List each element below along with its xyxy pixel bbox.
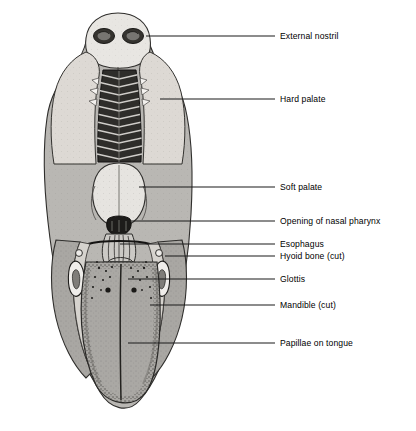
label-opening-of-nasal-pharynx: Opening of nasal pharynx (280, 216, 380, 226)
label-external-nostril: External nostril (280, 31, 338, 41)
papilla-vallate-left (105, 287, 110, 292)
label-papillae-on-tongue: Papillae on tongue (280, 338, 353, 348)
label-soft-palate: Soft palate (280, 182, 322, 192)
label-glottis: Glottis (280, 274, 305, 284)
label-esophagus: Esophagus (280, 239, 324, 249)
hard-palate (97, 70, 142, 162)
label-mandible-cut: Mandible (cut) (280, 300, 336, 310)
papilla-vallate-right (131, 287, 136, 292)
anatomy-figure: External nostrilHard palateSoft palateOp… (0, 0, 416, 431)
tongue-group (80, 258, 164, 414)
opening-of-nasal-pharynx (107, 216, 132, 236)
external-nostril-left (94, 29, 115, 44)
label-hard-palate: Hard palate (280, 94, 326, 104)
external-nostril-right (123, 29, 144, 44)
label-hyoid-bone-cut: Hyoid bone (cut) (280, 251, 345, 261)
